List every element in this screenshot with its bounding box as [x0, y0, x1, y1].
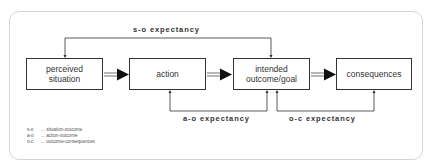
flow-arrow-3: [311, 73, 325, 76]
ao-connector: [170, 91, 267, 111]
legend-sep: ...: [41, 139, 45, 144]
oc-arrowhead-left: [276, 90, 279, 93]
flow-arrowhead-1: [117, 69, 129, 81]
oc-connector: [277, 91, 374, 111]
flow-arrow-2: [207, 73, 221, 76]
so-connector: [65, 38, 271, 57]
flow-arrow-1: [104, 73, 118, 76]
legend-text: outcome-consequences: [46, 139, 95, 144]
legend-sep: ...: [41, 127, 45, 132]
box-consequences: consequences: [336, 58, 412, 90]
ao-arrowhead-right: [266, 90, 269, 93]
legend-row-oc: o-c... outcome-consequences: [27, 139, 95, 145]
label-ao-expectancy: a-o expectancy: [183, 114, 250, 123]
legend-text: action-outcome: [46, 133, 77, 138]
box-action: action: [129, 58, 206, 90]
box-perceived-situation: perceived situation: [26, 58, 103, 90]
ao-arrowhead-left: [169, 90, 172, 93]
flow-arrowhead-3: [324, 69, 336, 81]
box-label-line2: situation: [46, 74, 83, 84]
legend-text: situation-outcome: [46, 127, 82, 132]
label-so-expectancy: s-o expectancy: [133, 25, 200, 34]
legend-sep: ...: [41, 133, 45, 138]
legend: s-o... situation-outcome a-o... action-o…: [27, 127, 95, 146]
box-intended-outcome: intended outcome/goal: [233, 58, 310, 90]
box-label-line2: outcome/goal: [246, 74, 297, 84]
flow-arrowhead-2: [220, 69, 232, 81]
oc-arrowhead-right: [373, 90, 376, 93]
box-label-line1: intended: [246, 64, 297, 74]
box-label-line1: perceived: [46, 64, 83, 74]
box-label: consequences: [347, 69, 402, 79]
legend-abbr: o-c: [27, 139, 41, 145]
label-oc-expectancy: o-c expectancy: [289, 114, 356, 123]
box-label: action: [156, 69, 179, 79]
